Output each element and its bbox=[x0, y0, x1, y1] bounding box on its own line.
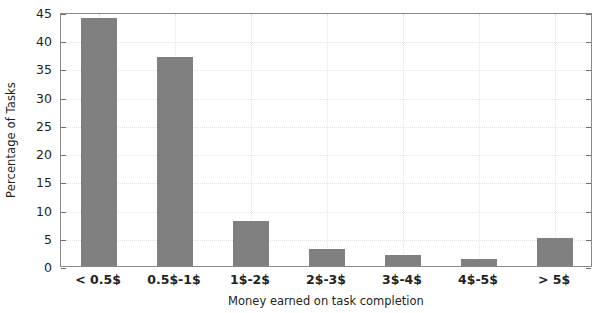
y-axis-tick-right bbox=[586, 183, 591, 184]
bar bbox=[309, 249, 345, 266]
bar bbox=[385, 255, 421, 266]
y-axis-tick-right bbox=[586, 127, 591, 128]
y-axis-tick-label: 25 bbox=[36, 118, 52, 133]
y-axis-tick-right bbox=[586, 240, 591, 241]
gridline-horizontal bbox=[61, 240, 591, 241]
plot-area bbox=[60, 13, 592, 267]
gridline-horizontal bbox=[61, 42, 591, 43]
x-axis-tick-label: 3$-4$ bbox=[382, 272, 422, 287]
y-axis-tick-label: 15 bbox=[36, 175, 52, 190]
gridline-vertical bbox=[555, 14, 556, 266]
y-axis-tick-labels: 051015202530354045 bbox=[22, 0, 58, 280]
y-axis-tick-label: 5 bbox=[44, 231, 52, 246]
y-axis-tick bbox=[61, 42, 66, 43]
bar bbox=[157, 57, 193, 266]
bar-chart: Percentage of Tasks 051015202530354045 <… bbox=[0, 0, 603, 313]
gridline-horizontal bbox=[61, 99, 591, 100]
bar bbox=[233, 221, 269, 266]
y-axis-tick bbox=[61, 212, 66, 213]
y-axis-tick-label: 20 bbox=[36, 147, 52, 162]
y-axis-tick-label: 30 bbox=[36, 90, 52, 105]
gridline-horizontal bbox=[61, 127, 591, 128]
y-axis-tick-right bbox=[586, 42, 591, 43]
gridline-horizontal bbox=[61, 155, 591, 156]
y-axis-tick bbox=[61, 14, 66, 15]
y-axis-tick-label: 35 bbox=[36, 62, 52, 77]
x-axis-tick-label: < 0.5$ bbox=[75, 272, 121, 287]
y-axis-tick-label: 10 bbox=[36, 203, 52, 218]
y-axis-tick bbox=[61, 183, 66, 184]
gridline-horizontal bbox=[61, 183, 591, 184]
gridline-vertical bbox=[327, 14, 328, 266]
x-axis-tick-labels: < 0.5$0.5$-1$1$-2$2$-3$3$-4$4$-5$> 5$ bbox=[60, 272, 592, 292]
x-axis-tick-label: 0.5$-1$ bbox=[147, 272, 200, 287]
x-axis-tick-label: 2$-3$ bbox=[306, 272, 346, 287]
y-axis-tick bbox=[61, 268, 66, 269]
gridline-horizontal bbox=[61, 212, 591, 213]
gridline-vertical bbox=[403, 14, 404, 266]
y-axis-tick-right bbox=[586, 155, 591, 156]
y-axis-title: Percentage of Tasks bbox=[0, 0, 22, 280]
y-axis-title-text: Percentage of Tasks bbox=[4, 82, 18, 198]
y-axis-tick-label: 45 bbox=[36, 6, 52, 21]
y-axis-tick-label: 40 bbox=[36, 34, 52, 49]
y-axis-tick-label: 0 bbox=[44, 260, 52, 275]
bar bbox=[461, 259, 497, 266]
y-axis-tick-right bbox=[586, 212, 591, 213]
bar bbox=[81, 18, 117, 266]
y-axis-tick bbox=[61, 99, 66, 100]
x-axis-title: Money earned on task completion bbox=[60, 294, 592, 308]
y-axis-tick-right bbox=[586, 14, 591, 15]
y-axis-tick bbox=[61, 70, 66, 71]
gridline-vertical bbox=[479, 14, 480, 266]
x-axis-tick-label: 4$-5$ bbox=[458, 272, 498, 287]
y-axis-tick bbox=[61, 240, 66, 241]
x-axis-tick-label: 1$-2$ bbox=[230, 272, 270, 287]
y-axis-tick bbox=[61, 155, 66, 156]
y-axis-tick bbox=[61, 127, 66, 128]
y-axis-tick-right bbox=[586, 268, 591, 269]
y-axis-tick-right bbox=[586, 99, 591, 100]
gridline-horizontal bbox=[61, 70, 591, 71]
y-axis-tick-right bbox=[586, 70, 591, 71]
bar bbox=[537, 238, 573, 266]
x-axis-tick-label: > 5$ bbox=[538, 272, 570, 287]
